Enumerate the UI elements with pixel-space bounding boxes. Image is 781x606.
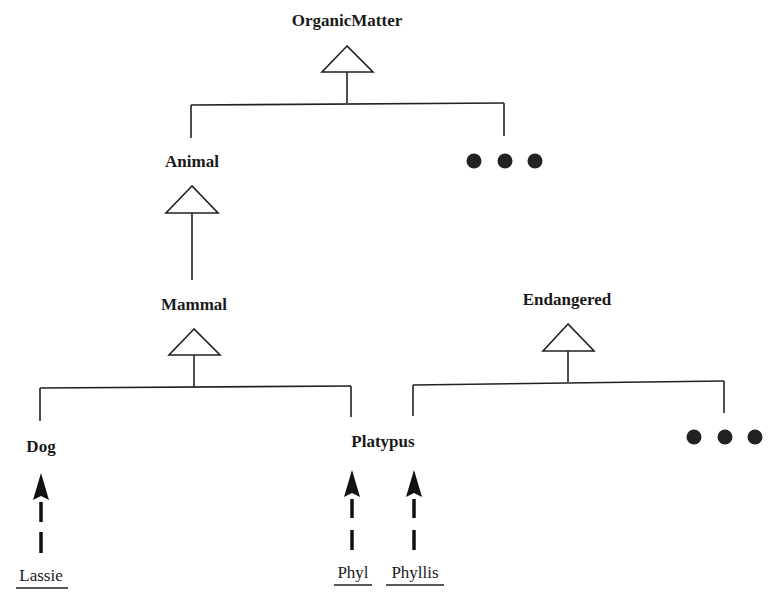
- instance-phyllis: Phyllis: [391, 563, 438, 582]
- instance-of-arrow-icon: [33, 473, 49, 553]
- generalization-triangle-icon: [169, 329, 220, 355]
- class-mammal: Mammal: [161, 295, 227, 314]
- class-endangered: Endangered: [523, 290, 612, 309]
- class-animal: Animal: [165, 152, 219, 171]
- instance-of-arrow-icon: [344, 470, 360, 550]
- connector: [191, 103, 504, 105]
- class-dog: Dog: [26, 437, 56, 456]
- ellipsis-icon: [687, 430, 763, 445]
- class-organicmatter: OrganicMatter: [292, 11, 403, 30]
- generalization-triangle-icon: [543, 324, 594, 351]
- instance-lassie: Lassie: [19, 566, 62, 585]
- generalization-triangle-icon: [166, 186, 218, 213]
- ellipsis-icon: [467, 154, 543, 169]
- generalization-triangle-icon: [322, 46, 373, 72]
- instance-phyl: Phyl: [337, 563, 368, 582]
- connector: [40, 386, 351, 388]
- class-hierarchy-diagram: OrganicMatter Animal Mammal Endangered D…: [0, 0, 781, 606]
- class-platypus: Platypus: [351, 432, 415, 451]
- instance-of-arrow-icon: [406, 470, 422, 550]
